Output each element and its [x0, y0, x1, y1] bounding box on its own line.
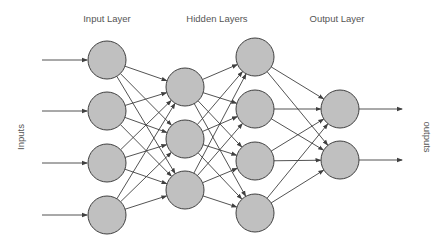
connection-arrow	[125, 196, 166, 209]
io-arrows	[42, 60, 402, 215]
connections	[117, 65, 328, 210]
connection-arrow	[120, 125, 171, 177]
hidden2-node	[236, 38, 274, 76]
neural-network-diagram: Input Layer Hidden Layers Output Layer I…	[0, 0, 446, 247]
connection-arrow	[197, 72, 242, 125]
connection-arrow	[271, 119, 323, 150]
hidden1-node	[166, 171, 204, 209]
hidden2-node	[236, 90, 274, 128]
connection-arrow	[202, 65, 237, 80]
connection-arrow	[121, 153, 171, 202]
input-layer-label: Input Layer	[83, 13, 131, 24]
output-node	[321, 90, 359, 128]
hidden1-node	[166, 120, 204, 158]
connection-arrow	[197, 124, 242, 176]
connection-arrow	[271, 67, 323, 99]
input-node	[88, 196, 126, 234]
connection-arrow	[271, 119, 323, 151]
connection-arrow	[121, 101, 171, 150]
inputs-label: Inputs	[15, 124, 26, 150]
input-node	[88, 92, 126, 130]
hidden2-node	[236, 142, 274, 180]
connection-arrow	[125, 169, 167, 183]
connection-arrow	[125, 93, 166, 106]
hidden-layers-label: Hidden Layers	[186, 13, 248, 24]
connection-arrow	[271, 170, 323, 203]
input-node	[88, 41, 126, 79]
connection-arrow	[203, 196, 236, 207]
outputs-label: outputs	[422, 121, 433, 152]
hidden1-node	[166, 68, 204, 106]
input-node	[88, 144, 126, 182]
connection-arrow	[125, 66, 167, 80]
output-node	[321, 141, 359, 179]
output-layer-label: Output Layer	[310, 13, 365, 24]
hidden2-node	[236, 194, 274, 232]
connection-arrow	[203, 168, 237, 182]
